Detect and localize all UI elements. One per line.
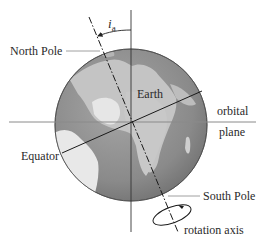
south-pole-label: South Pole: [203, 189, 255, 203]
north-pole-label: North Pole: [10, 44, 62, 58]
earth-label: Earth: [137, 87, 163, 101]
rotation-axis-label: rotation axis: [184, 223, 244, 237]
orbital-plane-label-line2: plane: [219, 125, 245, 139]
tilt-angle-label: ia: [108, 16, 116, 33]
equator-label: Equator: [21, 149, 59, 163]
orbital-plane-label-line1: orbital: [217, 104, 249, 118]
earth-tilt-diagram: ia North Pole Earth orbital plane Equato…: [0, 0, 263, 242]
